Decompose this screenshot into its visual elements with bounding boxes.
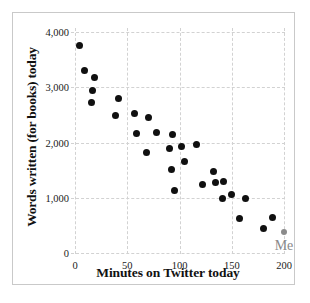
gridline-vertical: [127, 28, 128, 254]
data-point: [269, 214, 276, 221]
x-axis-title: Minutes on Twitter today: [53, 263, 283, 283]
data-point: [168, 166, 175, 173]
data-point: [115, 95, 122, 102]
y-tick-label: 0: [64, 248, 69, 259]
data-point: [199, 181, 206, 188]
data-point: [143, 149, 150, 156]
data-point: [210, 168, 217, 175]
data-point: [212, 179, 219, 186]
x-tick-label: 0: [72, 260, 77, 271]
data-point: [166, 145, 173, 152]
annotation-me-label: Me: [275, 238, 294, 254]
data-point: [145, 114, 152, 121]
data-point: [171, 187, 178, 194]
data-point: [131, 110, 138, 117]
x-tick-label: 150: [224, 260, 240, 271]
scatter-chart-figure: Words written (for books) today Minutes …: [12, 12, 295, 285]
data-point: [219, 195, 226, 202]
data-point: [81, 67, 88, 74]
data-point: [76, 42, 83, 49]
data-point: [220, 178, 227, 185]
data-point: [178, 143, 185, 150]
x-tick-label: 100: [172, 260, 188, 271]
data-point: [89, 87, 96, 94]
data-point-me: [281, 229, 287, 235]
data-point: [91, 74, 98, 81]
data-point: [181, 158, 188, 165]
data-point: [193, 141, 200, 148]
data-point: [236, 215, 243, 222]
gridline-vertical: [232, 28, 233, 254]
y-tick-label: 3,000: [45, 82, 69, 93]
gridline-vertical: [75, 28, 76, 254]
data-point: [112, 112, 119, 119]
plot-area: 01,0002,0003,0004,000 050100150200 Me: [75, 32, 284, 253]
y-tick-label: 1,000: [45, 192, 69, 203]
gridline-horizontal: [71, 87, 285, 88]
gridline-horizontal: [71, 198, 285, 199]
data-point: [133, 130, 140, 137]
gridline-vertical: [284, 28, 285, 254]
y-tick-label: 4,000: [45, 27, 69, 38]
data-point: [260, 225, 267, 232]
data-point: [169, 131, 176, 138]
gridline-horizontal: [71, 253, 285, 254]
y-tick-label: 2,000: [45, 137, 69, 148]
y-axis-title: Words written (for books) today: [21, 17, 43, 257]
data-point: [88, 99, 95, 106]
x-tick-label: 50: [122, 260, 133, 271]
data-point: [153, 129, 160, 136]
data-point: [242, 195, 249, 202]
x-tick-label: 200: [276, 260, 292, 271]
gridline-vertical: [180, 28, 181, 254]
gridline-horizontal: [71, 32, 285, 33]
